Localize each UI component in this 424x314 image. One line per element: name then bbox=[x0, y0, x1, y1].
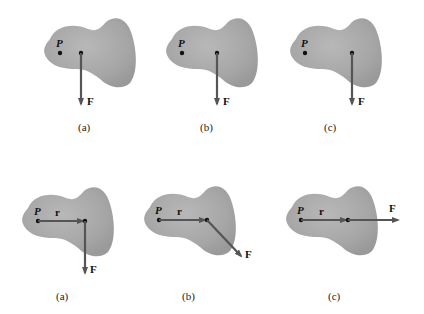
caption-a: (a) bbox=[78, 121, 91, 134]
caption-text: (b) bbox=[182, 290, 195, 303]
panel-bottom-b: P r F (b) bbox=[144, 186, 252, 303]
label-P: P bbox=[56, 37, 63, 49]
caption-text: (a) bbox=[78, 121, 91, 134]
label-P: P bbox=[297, 204, 304, 216]
panel-bottom-c: P r F (c) bbox=[286, 186, 398, 303]
caption-text: (a) bbox=[56, 290, 69, 303]
point-P-dot bbox=[303, 51, 307, 55]
label-P: P bbox=[178, 37, 185, 49]
label-F: F bbox=[389, 202, 396, 214]
moment-diagram: P F (a) P F (b) P F (c) P r F (a) bbox=[0, 0, 424, 314]
panel-top-c: P F (c) bbox=[290, 18, 382, 134]
caption-text: (b) bbox=[200, 121, 213, 134]
label-P: P bbox=[155, 204, 162, 216]
point-P-dot bbox=[180, 51, 184, 55]
label-r: r bbox=[319, 205, 324, 217]
label-r: r bbox=[55, 206, 60, 218]
label-F: F bbox=[245, 248, 252, 260]
label-r: r bbox=[177, 205, 182, 217]
label-F: F bbox=[223, 95, 230, 107]
caption-c: (c) bbox=[328, 290, 341, 303]
caption-b: (b) bbox=[182, 290, 195, 303]
caption-text: (c) bbox=[324, 121, 337, 134]
caption-text: (c) bbox=[328, 290, 341, 303]
label-F: F bbox=[358, 95, 365, 107]
panel-top-b: P F (b) bbox=[166, 18, 258, 134]
point-P-dot bbox=[58, 51, 62, 55]
label-P: P bbox=[34, 205, 41, 217]
panel-bottom-a: P r F (a) bbox=[22, 187, 114, 303]
caption-b: (b) bbox=[200, 121, 213, 134]
caption-a: (a) bbox=[56, 290, 69, 303]
label-F: F bbox=[87, 95, 94, 107]
caption-c: (c) bbox=[324, 121, 337, 134]
label-P: P bbox=[301, 37, 308, 49]
panel-top-a: P F (a) bbox=[44, 18, 136, 134]
label-F: F bbox=[90, 263, 97, 275]
